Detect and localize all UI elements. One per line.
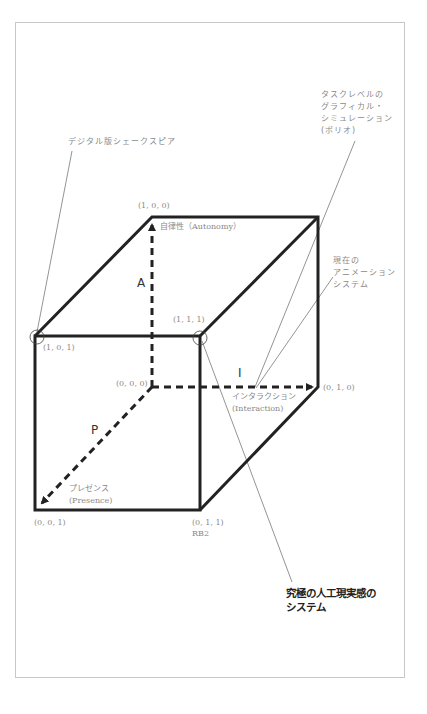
callout-task-level-simulation: タスクレベルの グラフィカル・ シミュレーション (ポリオ) (321, 89, 393, 137)
axis-label-interaction-en: (Interaction) (232, 403, 283, 414)
axis-letter-a: A (137, 276, 145, 290)
axes (42, 225, 312, 503)
callout-ultimate-ar-system: 究極の人工現実感の システム (286, 586, 376, 614)
vertex-label-011: (0, 1, 1) (192, 517, 224, 528)
leader-lines (37, 141, 355, 582)
axis-letter-p: P (91, 423, 98, 437)
vertex-name-rb2: RB2 (192, 528, 209, 539)
vertex-label-101: (1, 0, 1) (43, 342, 75, 353)
axis-label-interaction-jp: インタラクション (232, 391, 296, 402)
vertex-label-100: (1, 0, 0) (138, 200, 170, 211)
callout-current-animation: 現在の アニメーション システム (333, 255, 396, 291)
vertex-label-111: (1, 1, 1) (173, 314, 205, 325)
axis-letter-i: I (238, 366, 242, 380)
vertex-label-000: (0, 0, 0) (116, 378, 148, 389)
axis-label-presence-en: (Presence) (69, 495, 112, 506)
vertex-label-010: (0, 1, 0) (323, 382, 355, 393)
axis-label-autonomy: 自律性（Autonomy） (160, 221, 241, 232)
callout-digital-shakespeare: デジタル版シェークスピア (68, 136, 176, 148)
axis-label-presence-jp: プレゼンス (69, 483, 109, 494)
vertex-label-001: (0, 0, 1) (34, 517, 66, 528)
